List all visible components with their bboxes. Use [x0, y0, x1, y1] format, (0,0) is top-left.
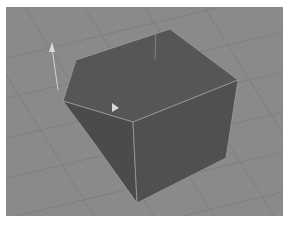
3d-viewport[interactable] — [6, 7, 283, 216]
viewport-canvas[interactable] — [6, 7, 283, 216]
cube[interactable] — [63, 29, 238, 203]
gizmo-y-axis — [52, 48, 58, 90]
